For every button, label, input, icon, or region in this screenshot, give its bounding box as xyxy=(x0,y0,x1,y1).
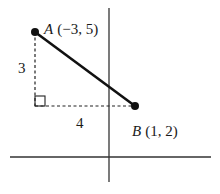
vertical-leg-label: 3 xyxy=(18,60,26,76)
right-angle-marker xyxy=(35,96,45,106)
coordinate-diagram: A(−3, 5) B(1, 2) 3 4 xyxy=(0,0,220,194)
horizontal-leg-label: 4 xyxy=(76,115,84,131)
point-b xyxy=(131,102,139,110)
point-b-label: B(1, 2) xyxy=(132,123,178,140)
point-a xyxy=(31,28,39,36)
segment-ab xyxy=(35,32,135,106)
point-a-label: A(−3, 5) xyxy=(43,21,98,38)
